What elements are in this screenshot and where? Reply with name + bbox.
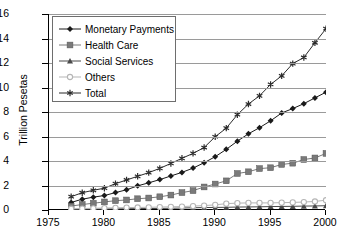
y-tick-label: 16 [0, 7, 9, 19]
series-health-care [68, 151, 326, 209]
x-tick-mark [159, 210, 160, 215]
legend-label: Health Care [82, 40, 138, 51]
legend-label: Others [82, 72, 115, 83]
legend-item-social-services[interactable]: Social Services [53, 53, 175, 69]
legend-item-health-care[interactable]: Health Care [53, 37, 175, 53]
x-tick-label: 2000 [300, 216, 341, 228]
gridline [49, 14, 326, 15]
legend-item-monetary-payments[interactable]: Monetary Payments [53, 21, 175, 37]
x-tick-mark [270, 210, 271, 215]
legend-item-others[interactable]: Others [53, 69, 175, 85]
legend-marker-star-icon [58, 86, 82, 100]
legend-box: Monetary PaymentsHealth CareSocial Servi… [52, 16, 176, 102]
gridline [49, 186, 326, 187]
y-tick-label: 2 [0, 179, 9, 191]
y-axis-title: Trillion Pesetas [17, 35, 29, 185]
x-tick-label: 1980 [78, 216, 128, 228]
chart-figure: Trillion Pesetas 0246810121416 197519801… [0, 0, 341, 242]
gridline [49, 161, 326, 162]
legend-label: Social Services [82, 56, 153, 67]
x-tick-label: 1985 [134, 216, 184, 228]
y-tick-label: 14 [0, 32, 9, 44]
x-tick-label: 1995 [245, 216, 295, 228]
x-tick-mark [325, 210, 326, 215]
gridline [49, 112, 326, 113]
legend-marker-triangle-icon [58, 54, 82, 68]
x-tick-label: 1990 [189, 216, 239, 228]
x-tick-mark [214, 210, 215, 215]
legend-label: Total [82, 88, 106, 99]
x-tick-mark [48, 210, 49, 215]
y-tick-label: 4 [0, 154, 9, 166]
series-monetary-payments [68, 89, 326, 205]
x-tick-mark [103, 210, 104, 215]
y-tick-label: 6 [0, 130, 9, 142]
y-tick-label: 10 [0, 81, 9, 93]
legend-item-total[interactable]: Total [53, 85, 175, 101]
legend-marker-square-icon [58, 38, 82, 52]
y-tick-label: 8 [0, 105, 9, 117]
gridline [49, 137, 326, 138]
y-tick-label: 12 [0, 56, 9, 68]
y-tick-label: 0 [0, 203, 9, 215]
x-tick-label: 1975 [23, 216, 73, 228]
legend-marker-diamond-icon [58, 22, 82, 36]
legend-marker-circle-open-icon [58, 70, 82, 84]
legend-label: Monetary Payments [82, 24, 174, 35]
